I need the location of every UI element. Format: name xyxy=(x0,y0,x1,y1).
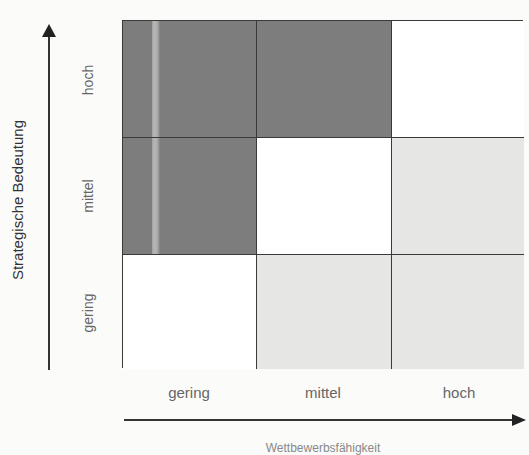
cell-hoch-mittel xyxy=(257,21,392,138)
cell-mittel-gering xyxy=(123,138,257,255)
x-tick-gering: gering xyxy=(168,384,210,401)
cell-mittel-mittel xyxy=(257,138,392,255)
x-tick-mittel: mittel xyxy=(305,384,341,401)
cell-mittel-hoch xyxy=(392,138,524,255)
y-tick-gering: gering xyxy=(80,294,96,333)
cell-gering-mittel xyxy=(257,255,392,369)
x-axis-arrow-line xyxy=(124,419,514,421)
x-axis-title: Wettbewerbsfähigkeit xyxy=(266,441,381,455)
y-axis-arrow-head-icon xyxy=(42,24,56,37)
y-tick-hoch: hoch xyxy=(80,65,96,95)
x-axis-arrow-head-icon xyxy=(512,414,526,426)
cell-hoch-gering xyxy=(123,21,257,138)
cell-gering-gering xyxy=(123,255,257,369)
cell-gering-hoch xyxy=(392,255,524,369)
matrix-grid xyxy=(122,20,523,368)
y-axis-arrow-line xyxy=(48,34,50,370)
cell-hoch-hoch xyxy=(392,21,524,138)
x-tick-hoch: hoch xyxy=(443,384,476,401)
y-axis-title: Strategische Bedeutung xyxy=(9,120,26,280)
y-tick-mittel: mittel xyxy=(80,179,96,212)
